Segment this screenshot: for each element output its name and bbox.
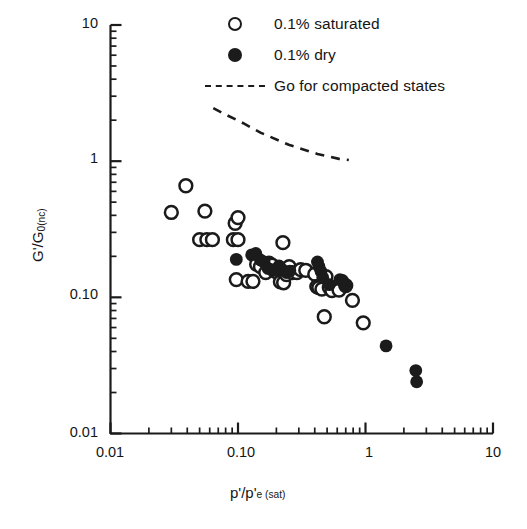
x-tick-label-1: 1 [339, 444, 399, 460]
point-dry-0 [230, 253, 243, 266]
x-axis-title: p'/p'e (sat) [230, 484, 285, 501]
point-saturated-9 [232, 233, 245, 246]
point-saturated-5 [206, 233, 219, 246]
x-tick-label-0.01: 0.01 [80, 444, 140, 460]
y-tick-label-10: 10 [44, 15, 98, 31]
plot-axes [110, 25, 493, 434]
point-saturated-40 [357, 316, 370, 329]
point-dry-11 [283, 265, 296, 278]
point-saturated-0 [165, 206, 178, 219]
chart-figure: 0.1% saturated 0.1% dry Go for compacted… [0, 0, 527, 529]
point-saturated-38 [318, 310, 331, 323]
point-dry-21 [409, 364, 422, 377]
point-saturated-7 [232, 211, 245, 224]
y-axis-ticks [111, 25, 122, 434]
x-tick-label-0.10: 0.10 [211, 444, 271, 460]
point-dry-22 [410, 375, 423, 388]
y-axis-title-text: G'/G0(nc) [29, 208, 46, 262]
y-tick-label-0.10: 0.10 [44, 286, 98, 302]
point-saturated-39 [346, 294, 359, 307]
point-dry-20 [380, 339, 393, 352]
y-tick-label-1: 1 [44, 150, 98, 166]
point-dry-19 [339, 279, 352, 292]
x-tick-label-10: 10 [463, 444, 523, 460]
point-saturated-23 [277, 236, 290, 249]
point-saturated-12 [247, 275, 260, 288]
series-saturated-points [165, 179, 370, 329]
x-axis-title-text: p'/p'e (sat) [230, 484, 285, 501]
point-saturated-1 [179, 179, 192, 192]
point-saturated-2 [199, 205, 212, 218]
reference-line-go-compacted [213, 108, 349, 160]
y-tick-label-0.01: 0.01 [44, 424, 98, 440]
x-axis-ticks [111, 423, 494, 434]
y-axis-title: G'/G0(nc) [29, 175, 47, 295]
